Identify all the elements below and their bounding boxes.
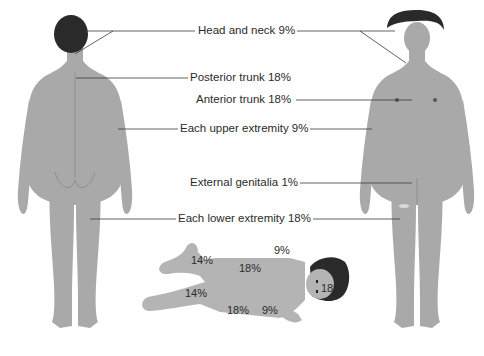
infant-leg-bottom-pct: 14% [185,287,207,299]
label-genitalia: External genitalia 1% [188,176,300,189]
adult-back-hair [54,15,88,53]
infant-arm-top-pct: 9% [274,244,290,256]
infant-trunk-back-pct: 18% [227,304,249,316]
rule-of-nines-diagram: Head and neck 9% Posterior trunk 18% Ant… [0,0,484,356]
infant-leg-top-pct: 14% [191,254,213,266]
infant-arm-bottom-pct: 9% [262,304,278,316]
infant-head-pct: 18% [321,282,343,294]
adult-front-figure [360,22,474,328]
label-anterior-trunk: Anterior trunk 18% [194,93,293,106]
infant-trunk-front-pct: 18% [239,262,261,274]
label-lower-extremity: Each lower extremity 18% [176,212,313,225]
label-head-neck: Head and neck 9% [196,24,297,37]
label-upper-extremity: Each upper extremity 9% [178,122,310,135]
label-posterior-trunk: Posterior trunk 18% [188,71,293,84]
